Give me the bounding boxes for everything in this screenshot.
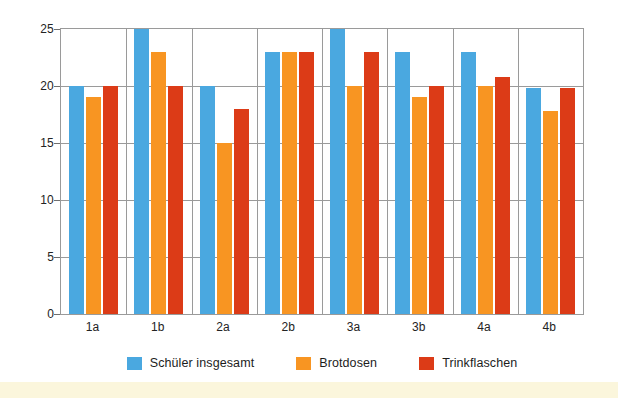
bar bbox=[282, 52, 297, 314]
bar bbox=[234, 109, 249, 314]
y-axis: 2520151050 bbox=[10, 28, 54, 315]
legend-swatch-icon bbox=[127, 357, 142, 370]
legend-item: Brotdosen bbox=[296, 356, 377, 370]
bar bbox=[543, 111, 558, 314]
bar bbox=[429, 86, 444, 314]
x-axis-tick-label: 4a bbox=[477, 320, 491, 334]
bar bbox=[299, 52, 314, 314]
bar bbox=[347, 86, 362, 314]
y-axis-tick-label: 10 bbox=[20, 193, 54, 207]
bar bbox=[364, 52, 379, 314]
legend-item: Schüler insgesamt bbox=[127, 356, 255, 370]
x-axis-tick-label: 4b bbox=[543, 320, 557, 334]
bar bbox=[560, 88, 575, 314]
bar-group bbox=[453, 29, 518, 314]
chart-legend: Schüler insgesamtBrotdosenTrinkflaschen bbox=[60, 356, 584, 370]
bar-group bbox=[322, 29, 387, 314]
bar bbox=[86, 97, 101, 314]
bar-group bbox=[192, 29, 257, 314]
legend-label: Schüler insgesamt bbox=[150, 356, 255, 370]
bar bbox=[217, 143, 232, 314]
bar-group bbox=[387, 29, 452, 314]
bar-group bbox=[126, 29, 191, 314]
bar bbox=[69, 86, 84, 314]
y-axis-tick-label: 15 bbox=[20, 136, 54, 150]
bar-group bbox=[61, 29, 126, 314]
chart-page: 2520151050 1a1b2a2b3a3b4a4b Schüler insg… bbox=[0, 0, 618, 398]
bar bbox=[461, 52, 476, 314]
legend-swatch-icon bbox=[296, 357, 311, 370]
bar bbox=[412, 97, 427, 314]
x-axis-tick-label: 3a bbox=[347, 320, 361, 334]
bottom-band bbox=[0, 382, 618, 398]
bar bbox=[103, 86, 118, 314]
x-axis-tick-label: 1b bbox=[151, 320, 165, 334]
legend-label: Brotdosen bbox=[319, 356, 377, 370]
x-axis-tick-label: 3b bbox=[412, 320, 426, 334]
bar bbox=[395, 52, 410, 314]
legend-item: Trinkflaschen bbox=[419, 356, 517, 370]
y-axis-tick-label: 20 bbox=[20, 79, 54, 93]
bar-group bbox=[518, 29, 583, 314]
y-axis-tick-label: 5 bbox=[20, 250, 54, 264]
x-axis-tick-label: 1a bbox=[86, 320, 100, 334]
bar bbox=[330, 29, 345, 314]
bar bbox=[168, 86, 183, 314]
x-axis-tick-label: 2a bbox=[216, 320, 230, 334]
y-axis-tick-label: 0 bbox=[20, 307, 54, 321]
bar-group bbox=[257, 29, 322, 314]
bar bbox=[478, 86, 493, 314]
bar bbox=[200, 86, 215, 314]
bar bbox=[151, 52, 166, 314]
bar bbox=[265, 52, 280, 314]
plot-area bbox=[60, 28, 584, 315]
x-axis-tick-label: 2b bbox=[282, 320, 296, 334]
legend-label: Trinkflaschen bbox=[442, 356, 517, 370]
bar bbox=[526, 88, 541, 314]
legend-swatch-icon bbox=[419, 357, 434, 370]
x-axis: 1a1b2a2b3a3b4a4b bbox=[60, 320, 584, 340]
bar bbox=[495, 77, 510, 314]
bar bbox=[134, 29, 149, 314]
y-axis-tick-label: 25 bbox=[20, 22, 54, 36]
